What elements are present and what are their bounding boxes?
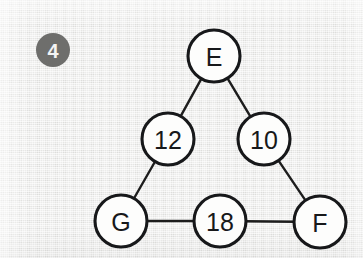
graph-node-18[interactable]: 18 bbox=[194, 195, 246, 247]
graph-diagram: E1210G18F 4 bbox=[0, 0, 363, 258]
graph-edge-12-G bbox=[133, 161, 155, 200]
graph-node-10[interactable]: 10 bbox=[238, 113, 290, 165]
badge-label: 4 bbox=[47, 40, 59, 62]
graph-node-E[interactable]: E bbox=[188, 30, 240, 82]
graph-edge-18-F bbox=[245, 221, 295, 222]
nodes-layer: E1210G18F bbox=[95, 30, 346, 248]
node-label-10: 10 bbox=[250, 126, 278, 154]
graph-edge-E-10 bbox=[227, 77, 251, 118]
node-label-F: F bbox=[312, 209, 327, 237]
node-label-E: E bbox=[206, 43, 223, 71]
figure-canvas: E1210G18F 4 bbox=[0, 0, 363, 258]
node-label-18: 18 bbox=[206, 208, 234, 236]
graph-node-F[interactable]: F bbox=[294, 196, 346, 248]
figure-number-badge: 4 bbox=[36, 33, 70, 67]
node-label-G: G bbox=[111, 208, 130, 236]
graph-edge-10-F bbox=[278, 160, 306, 202]
graph-node-G[interactable]: G bbox=[95, 195, 147, 247]
node-label-12: 12 bbox=[154, 126, 182, 154]
graph-node-12[interactable]: 12 bbox=[142, 113, 194, 165]
graph-edge-E-12 bbox=[180, 78, 202, 118]
